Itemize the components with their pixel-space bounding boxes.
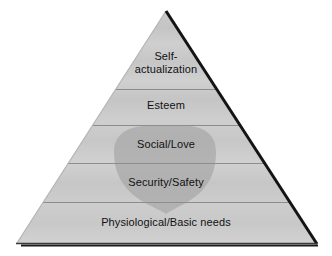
pyramid-figure: Self- actualization Esteem Social/Love S… <box>0 0 332 256</box>
pyramid-graphic <box>0 0 332 256</box>
